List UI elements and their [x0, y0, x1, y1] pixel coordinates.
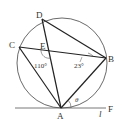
- segment-CB: [19, 47, 106, 58]
- label-E: E: [40, 41, 46, 51]
- geometry-diagram: D C E B A F l 110° 23° θ: [0, 0, 124, 122]
- angle-label-110: 110°: [34, 62, 47, 70]
- label-F: F: [108, 104, 113, 114]
- angle-label-theta: θ: [75, 96, 79, 104]
- label-A: A: [57, 111, 64, 121]
- label-D: D: [36, 10, 43, 20]
- label-line-l: l: [99, 109, 102, 119]
- label-B: B: [108, 54, 114, 64]
- label-C: C: [9, 40, 15, 50]
- segment-DB: [42, 19, 106, 58]
- angle-label-23: 23°: [74, 62, 84, 70]
